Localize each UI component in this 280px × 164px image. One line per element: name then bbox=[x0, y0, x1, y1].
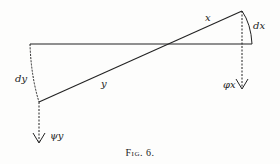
arc-dy bbox=[30, 44, 39, 102]
label-psi-y: ψy bbox=[50, 131, 64, 141]
label-dy: dy bbox=[15, 74, 27, 84]
label-dx: dx bbox=[253, 21, 265, 31]
diagram-lines bbox=[0, 0, 280, 164]
figure-6: x dx φx y dy ψy Fig. 6. bbox=[0, 0, 280, 164]
arc-dx bbox=[242, 11, 252, 44]
arrow-phi-x-head bbox=[236, 79, 248, 89]
label-y: y bbox=[101, 79, 107, 89]
label-x: x bbox=[205, 13, 211, 23]
rotated-bar bbox=[39, 11, 242, 102]
label-phi-x: φx bbox=[223, 80, 236, 90]
figure-caption: Fig. 6. bbox=[0, 147, 280, 158]
